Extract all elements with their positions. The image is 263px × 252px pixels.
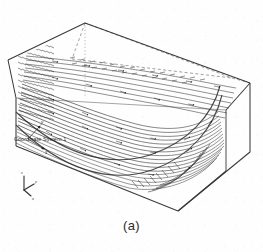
triad-label-x: x xyxy=(31,196,34,201)
figure-caption: (a) xyxy=(0,218,263,233)
global-axis-triad: z y x xyxy=(20,170,37,201)
outlet-vector-fan xyxy=(132,162,180,188)
flow-visualisation-plot: y x Coordinate System 1 z y x xyxy=(0,0,263,252)
triad-label-y: y xyxy=(34,179,37,184)
streamline-bundle xyxy=(16,28,236,192)
figure-container: y x Coordinate System 1 z y x (a) xyxy=(0,0,263,252)
coordinate-system-annotation: y x Coordinate System 1 xyxy=(14,119,66,155)
triad-y-axis xyxy=(24,184,34,190)
coordinate-system-label: Coordinate System 1 xyxy=(14,136,66,142)
inlet-seed-rake xyxy=(18,28,54,120)
triad-label-z: z xyxy=(20,170,23,175)
triad-x-axis xyxy=(24,190,31,196)
